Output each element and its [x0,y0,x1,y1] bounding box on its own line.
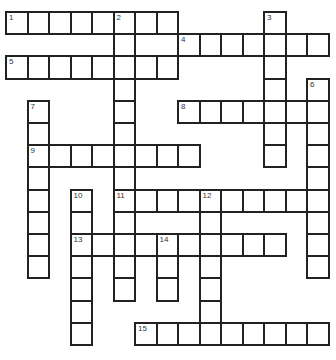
crossword-cell[interactable]: 15 [134,322,158,346]
crossword-cell[interactable] [70,300,94,324]
crossword-cell[interactable] [27,211,51,235]
crossword-cell[interactable] [134,144,158,168]
crossword-cell[interactable]: 3 [263,11,287,35]
crossword-cell[interactable] [27,233,51,257]
crossword-cell[interactable] [306,233,330,257]
crossword-cell[interactable] [263,322,287,346]
crossword-cell[interactable] [156,55,180,79]
crossword-cell[interactable]: 11 [113,189,137,213]
crossword-cell[interactable]: 9 [27,144,51,168]
crossword-cell[interactable] [27,189,51,213]
crossword-cell[interactable] [177,144,201,168]
crossword-cell[interactable] [27,255,51,279]
crossword-cell[interactable] [306,100,330,124]
crossword-cell[interactable] [199,211,223,235]
crossword-cell[interactable] [177,189,201,213]
crossword-cell[interactable] [70,255,94,279]
crossword-cell[interactable]: 4 [177,33,201,57]
crossword-cell[interactable] [263,100,287,124]
crossword-cell[interactable] [156,255,180,279]
crossword-cell[interactable] [220,33,244,57]
crossword-cell[interactable] [70,322,94,346]
crossword-cell[interactable] [113,100,137,124]
crossword-cell[interactable] [242,322,266,346]
crossword-cell[interactable] [306,144,330,168]
crossword-cell[interactable] [113,233,137,257]
crossword-cell[interactable] [156,277,180,301]
crossword-cell[interactable] [27,11,51,35]
crossword-cell[interactable] [27,55,51,79]
crossword-cell[interactable] [134,233,158,257]
crossword-cell[interactable]: 12 [199,189,223,213]
crossword-cell[interactable] [199,300,223,324]
crossword-cell[interactable] [306,322,330,346]
crossword-cell[interactable] [70,277,94,301]
crossword-cell[interactable] [242,33,266,57]
crossword-cell[interactable] [263,189,287,213]
crossword-cell[interactable] [27,122,51,146]
crossword-cell[interactable] [199,322,223,346]
crossword-cell[interactable] [70,11,94,35]
crossword-cell[interactable] [285,100,309,124]
crossword-cell[interactable] [306,166,330,190]
crossword-cell[interactable] [156,189,180,213]
crossword-cell[interactable] [113,122,137,146]
crossword-cell[interactable]: 8 [177,100,201,124]
crossword-cell[interactable] [113,277,137,301]
crossword-cell[interactable] [242,100,266,124]
crossword-cell[interactable] [242,189,266,213]
crossword-cell[interactable] [306,122,330,146]
crossword-cell[interactable] [199,233,223,257]
crossword-cell[interactable] [134,189,158,213]
crossword-cell[interactable] [242,233,266,257]
crossword-cell[interactable] [113,33,137,57]
crossword-cell[interactable] [285,322,309,346]
crossword-cell[interactable] [306,33,330,57]
crossword-cell[interactable] [113,78,137,102]
crossword-cell[interactable] [263,122,287,146]
crossword-cell[interactable] [134,11,158,35]
crossword-cell[interactable] [199,100,223,124]
crossword-cell[interactable] [220,100,244,124]
crossword-cell[interactable]: 5 [5,55,29,79]
crossword-cell[interactable]: 14 [156,233,180,257]
crossword-cell[interactable] [285,33,309,57]
crossword-cell[interactable] [70,211,94,235]
crossword-cell[interactable] [70,144,94,168]
crossword-cell[interactable]: 1 [5,11,29,35]
crossword-cell[interactable] [199,255,223,279]
crossword-cell[interactable] [113,55,137,79]
crossword-cell[interactable] [48,55,72,79]
crossword-cell[interactable] [113,211,137,235]
crossword-cell[interactable] [113,166,137,190]
crossword-cell[interactable] [199,277,223,301]
crossword-cell[interactable] [70,55,94,79]
crossword-cell[interactable] [48,144,72,168]
crossword-cell[interactable] [27,166,51,190]
crossword-cell[interactable] [263,55,287,79]
crossword-cell[interactable] [156,322,180,346]
crossword-cell[interactable] [306,189,330,213]
crossword-cell[interactable] [263,144,287,168]
crossword-cell[interactable] [113,255,137,279]
crossword-cell[interactable] [113,144,137,168]
crossword-cell[interactable] [91,55,115,79]
crossword-cell[interactable] [220,233,244,257]
crossword-cell[interactable] [91,233,115,257]
crossword-cell[interactable] [91,144,115,168]
crossword-cell[interactable] [285,189,309,213]
crossword-cell[interactable] [263,233,287,257]
crossword-cell[interactable] [220,189,244,213]
crossword-cell[interactable]: 13 [70,233,94,257]
crossword-cell[interactable] [220,322,244,346]
crossword-cell[interactable] [134,55,158,79]
crossword-cell[interactable] [48,11,72,35]
crossword-cell[interactable]: 10 [70,189,94,213]
crossword-cell[interactable] [91,11,115,35]
crossword-cell[interactable] [156,144,180,168]
crossword-cell[interactable] [177,322,201,346]
crossword-cell[interactable]: 6 [306,78,330,102]
crossword-cell[interactable] [263,78,287,102]
crossword-cell[interactable] [156,11,180,35]
crossword-cell[interactable] [263,33,287,57]
